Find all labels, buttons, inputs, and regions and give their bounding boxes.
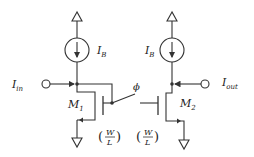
m2-label: M2 [179,97,196,112]
circuit-diagram: IB Iin M1 ϕ IB Iout [0,0,254,157]
wl-right-label: ( W L ) [136,128,159,147]
gnd-right-symbol [179,140,189,149]
svg-text:(: ( [98,129,103,144]
svg-text:(: ( [136,129,141,144]
current-source-left-icon [65,38,89,62]
svg-text:L: L [144,138,150,147]
svg-text:L: L [106,138,112,147]
input-terminal-icon [42,80,50,88]
wl-left-label: ( W L ) [98,128,121,147]
switch-blade-icon [112,94,135,103]
m1-label: M1 [67,98,84,113]
gnd-left-symbol [72,138,82,147]
m2-transistor-icon [158,84,184,140]
svg-text:W: W [144,128,153,137]
ib-left-label: IB [96,44,107,59]
svg-text:): ) [154,129,159,144]
iin-label: Iin [11,78,24,93]
vdd-left-symbol [72,12,82,38]
iout-label: Iout [221,76,238,91]
phi-label: ϕ [133,81,140,92]
svg-text:W: W [106,128,115,137]
output-terminal-icon [201,80,209,88]
vdd-right-symbol [167,12,177,38]
current-source-right-icon [160,38,184,62]
ib-right-label: IB [144,44,155,59]
svg-text:): ) [116,129,121,144]
